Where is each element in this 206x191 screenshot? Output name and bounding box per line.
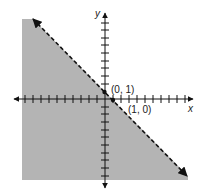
- point-0-1: [102, 90, 106, 94]
- point-a-label: (0, 1): [111, 84, 134, 95]
- point-1-0: [111, 98, 115, 102]
- inequality-graph: y x (0, 1) (1, 0): [0, 0, 206, 191]
- y-axis-label: y: [94, 8, 101, 19]
- x-axis-label: x: [187, 103, 194, 114]
- point-b-label: (1, 0): [128, 104, 151, 115]
